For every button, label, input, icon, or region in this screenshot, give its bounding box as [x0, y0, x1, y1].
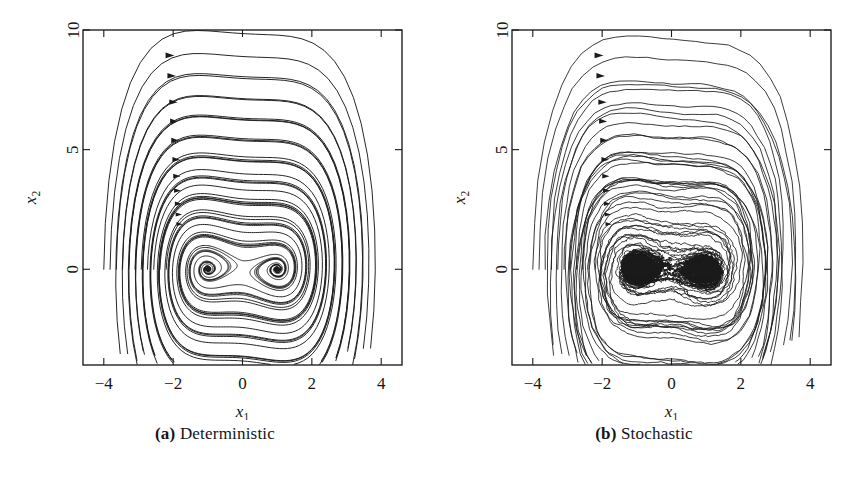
caption-label-a: (a) [155, 424, 175, 443]
figure-root: −4−20240510x1x2 (a) Deterministic −4−202… [0, 0, 859, 484]
caption-deterministic: (a) Deterministic [0, 424, 430, 444]
direction-arrowhead [601, 157, 609, 162]
direction-arrowhead [174, 188, 181, 193]
caption-stochastic: (b) Stochastic [429, 424, 859, 444]
direction-arrowhead [173, 174, 180, 179]
x-tick-label: −4 [524, 374, 543, 393]
fixed-point-group [205, 267, 281, 271]
direction-arrowhead [600, 138, 608, 143]
direction-arrowhead [176, 212, 182, 216]
trajectory-curve [533, 36, 803, 364]
x-tick-label: 2 [308, 374, 317, 393]
y-tick-label: 5 [64, 145, 83, 154]
caption-label-b: (b) [595, 424, 616, 443]
x-tick-label: 4 [806, 374, 815, 393]
attractor-cloud [691, 261, 721, 277]
y-tick-label: 10 [64, 22, 83, 39]
panel-deterministic: −4−20240510x1x2 (a) Deterministic [0, 0, 430, 484]
direction-arrowhead [595, 53, 604, 59]
fixed-point-marker [274, 267, 280, 271]
attractor-cloud [622, 261, 652, 277]
caption-text-a: Deterministic [180, 424, 275, 443]
panel-stochastic: −4−20240510x1x2 (b) Stochastic [429, 0, 859, 484]
direction-arrowhead [602, 174, 609, 179]
direction-arrowhead [599, 119, 607, 124]
direction-arrowhead [598, 99, 606, 104]
y-tick-label: 10 [493, 22, 512, 39]
x-tick-label: −2 [593, 374, 611, 393]
x-tick-label: 0 [238, 374, 247, 393]
y-tick-label: 0 [64, 265, 83, 274]
axes-box [512, 30, 831, 365]
fixed-point-marker [205, 267, 211, 271]
phase-portrait-stochastic: −4−20240510x1x2 [429, 0, 859, 420]
y-tick-label: 0 [493, 265, 512, 274]
tick-group [512, 30, 831, 365]
x-tick-label: −2 [164, 374, 182, 393]
direction-arrowhead [605, 212, 611, 216]
trajectory-group [533, 36, 803, 364]
x-tick-label: −4 [95, 374, 114, 393]
y-tick-label: 5 [493, 145, 512, 154]
x-tick-label: 0 [667, 374, 676, 393]
trajectory-group [104, 31, 375, 365]
caption-text-b: Stochastic [621, 424, 693, 443]
direction-arrowhead [596, 73, 605, 79]
phase-portrait-deterministic: −4−20240510x1x2 [0, 0, 430, 420]
x-tick-label: 4 [377, 374, 386, 393]
x-tick-label: 2 [737, 374, 746, 393]
